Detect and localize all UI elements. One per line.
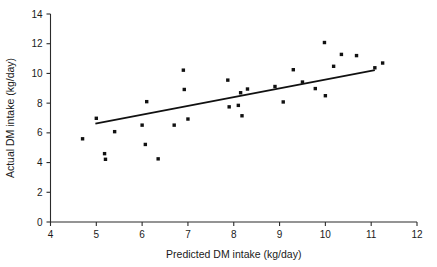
data-point bbox=[381, 61, 384, 64]
y-tick-label: 8 bbox=[37, 98, 43, 109]
x-tick-label: 9 bbox=[277, 229, 283, 240]
data-point bbox=[183, 88, 186, 91]
y-tick-label: 2 bbox=[37, 187, 43, 198]
data-point bbox=[282, 100, 285, 103]
data-point bbox=[323, 41, 326, 44]
x-axis-title: Predicted DM intake (kg/day) bbox=[166, 248, 301, 260]
y-axis-ticks: 02468101214 bbox=[31, 9, 50, 228]
x-tick-label: 4 bbox=[48, 229, 54, 240]
data-point bbox=[237, 104, 240, 107]
x-tick-label: 6 bbox=[139, 229, 145, 240]
chart-canvas: 456789101112 02468101214 Predicted DM in… bbox=[0, 0, 437, 267]
x-axis-ticks: 456789101112 bbox=[48, 222, 423, 240]
axes-group bbox=[51, 14, 418, 222]
data-point bbox=[145, 100, 148, 103]
data-point bbox=[104, 158, 107, 161]
y-tick-label: 4 bbox=[37, 157, 43, 168]
scatter-chart: 456789101112 02468101214 Predicted DM in… bbox=[0, 0, 437, 267]
data-point bbox=[340, 53, 343, 56]
data-point bbox=[156, 157, 159, 160]
trend-line bbox=[95, 70, 374, 123]
y-axis-title: Actual DM intake (kg/day) bbox=[4, 58, 16, 178]
x-tick-label: 12 bbox=[411, 229, 423, 240]
x-tick-label: 10 bbox=[320, 229, 332, 240]
data-point bbox=[113, 130, 116, 133]
x-tick-label: 5 bbox=[94, 229, 100, 240]
data-point bbox=[140, 123, 143, 126]
data-point bbox=[292, 68, 295, 71]
data-point bbox=[355, 54, 358, 57]
x-tick-label: 7 bbox=[185, 229, 191, 240]
data-point bbox=[240, 114, 243, 117]
y-tick-label: 10 bbox=[31, 68, 43, 79]
y-tick-label: 14 bbox=[31, 9, 43, 20]
y-tick-label: 0 bbox=[37, 217, 43, 228]
data-point bbox=[144, 143, 147, 146]
data-point bbox=[273, 85, 276, 88]
data-point bbox=[95, 117, 98, 120]
data-point bbox=[332, 65, 335, 68]
data-point bbox=[226, 78, 229, 81]
data-point bbox=[239, 91, 242, 94]
x-tick-label: 11 bbox=[366, 229, 377, 240]
data-point bbox=[182, 68, 185, 71]
data-point bbox=[81, 137, 84, 140]
x-tick-label: 8 bbox=[231, 229, 237, 240]
data-point bbox=[186, 117, 189, 120]
data-point bbox=[227, 105, 230, 108]
data-point bbox=[103, 152, 106, 155]
y-tick-label: 12 bbox=[31, 38, 43, 49]
y-tick-label: 6 bbox=[37, 127, 43, 138]
data-point bbox=[324, 94, 327, 97]
data-point bbox=[373, 66, 376, 69]
data-point bbox=[314, 87, 317, 90]
data-point bbox=[172, 123, 175, 126]
data-point bbox=[246, 87, 249, 90]
data-points-group bbox=[81, 41, 384, 161]
